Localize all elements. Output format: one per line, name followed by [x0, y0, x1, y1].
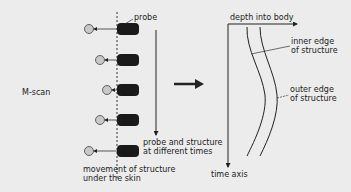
outer-edge-leader	[277, 95, 289, 98]
structure-circle	[85, 147, 94, 156]
inner-edge-leader	[251, 46, 290, 54]
probe-icon	[117, 23, 139, 35]
m-scan-diagram: M-scan probe probe and structure at diff…	[0, 0, 351, 192]
structure-circle	[85, 25, 94, 34]
transform-arrow-icon	[195, 79, 204, 89]
probe-icon	[117, 54, 139, 66]
inner-edge-label-2: of structure	[291, 46, 338, 55]
movement-label-2: under the skin	[83, 174, 141, 183]
probe-times-label-1: probe and structure	[143, 138, 223, 147]
probe-icon	[117, 84, 139, 96]
structure-circle	[96, 56, 105, 65]
probe-icon	[117, 145, 139, 157]
m-scan-label: M-scan	[22, 88, 50, 97]
structure-circle	[96, 116, 105, 125]
probe-times-label-2: at different times	[143, 147, 212, 156]
movement-label-1: movement of structure	[83, 165, 175, 174]
outer-edge-label-2: of structure	[290, 94, 337, 103]
probe-label: probe	[134, 13, 157, 22]
outer-edge-label-1: outer edge	[290, 85, 334, 94]
probe-group	[85, 23, 140, 157]
inner-edge-label-1: inner edge	[291, 37, 334, 46]
outer-edge-curve	[260, 27, 277, 156]
time-axis-label: time axis	[211, 170, 248, 179]
probe-icon	[117, 114, 139, 126]
depth-axis-label: depth into body	[230, 13, 294, 22]
structure-circle	[103, 86, 112, 95]
